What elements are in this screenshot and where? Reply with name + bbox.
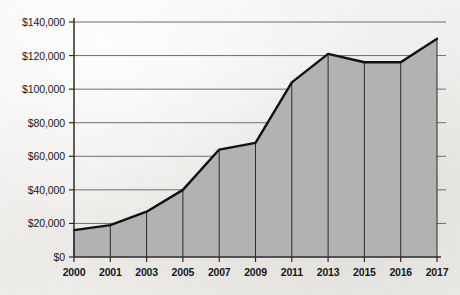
- x-axis-label-2000: 2000: [63, 266, 86, 278]
- area-chart-plot: [0, 0, 460, 295]
- x-axis-label-2016: 2016: [389, 266, 412, 278]
- x-axis-label-2017: 2017: [426, 266, 449, 278]
- x-axis-label-2011: 2011: [281, 266, 303, 278]
- y-axis-label-40000: $40,000: [28, 184, 65, 196]
- x-axis-label-2015: 2015: [353, 266, 376, 278]
- y-axis-label-120000: $120,000: [22, 50, 65, 62]
- y-axis-label-80000: $80,000: [28, 117, 65, 129]
- x-axis-label-2009: 2009: [244, 266, 267, 278]
- x-axis-label-2001: 2001: [99, 266, 122, 278]
- y-axis-label-60000: $60,000: [28, 150, 65, 162]
- y-axis-label-20000: $20,000: [28, 217, 65, 229]
- x-axis-label-2013: 2013: [317, 266, 340, 278]
- x-axis-label-2003: 2003: [135, 266, 158, 278]
- chart-container: $0$20,000$40,000$60,000$80,000$100,000$1…: [0, 0, 460, 295]
- x-axis-label-2007: 2007: [208, 266, 231, 278]
- x-axis-label-2005: 2005: [172, 266, 195, 278]
- y-axis-label-100000: $100,000: [22, 83, 65, 95]
- y-axis-label-0: $0: [54, 251, 65, 263]
- y-axis-label-140000: $140,000: [22, 16, 65, 28]
